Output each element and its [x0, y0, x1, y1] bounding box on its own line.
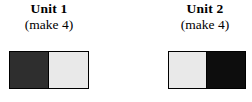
unit-1-subtitle: (make 4)	[0, 17, 98, 32]
figure-canvas: Unit 1 (make 4) Unit 2 (make 4)	[0, 0, 252, 102]
unit-1-half-right-light	[49, 52, 88, 88]
unit-block-2: Unit 2 (make 4)	[158, 0, 252, 102]
unit-1-patch	[9, 51, 89, 89]
unit-2-subtitle: (make 4)	[158, 17, 252, 32]
unit-2-patch	[168, 51, 246, 89]
unit-1-title: Unit 1	[0, 1, 98, 16]
unit-1-half-left-dark	[10, 52, 49, 88]
unit-2-half-left-light	[169, 52, 207, 88]
unit-2-title: Unit 2	[158, 1, 252, 16]
unit-block-1: Unit 1 (make 4)	[0, 0, 98, 102]
unit-2-half-right-black	[207, 52, 245, 88]
